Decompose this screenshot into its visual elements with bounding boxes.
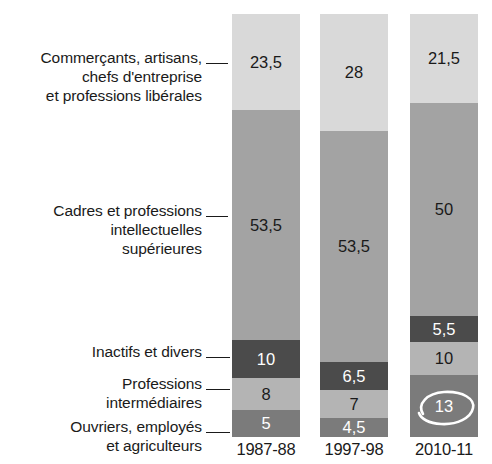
segment-commercants-1987: 23,5 <box>232 14 300 110</box>
segment-ouvriers-2010: 13 <box>410 375 478 437</box>
category-label-professions-intermediaires: Professions intermédiaires <box>6 374 202 412</box>
segment-intermediaires-2010: 10 <box>410 342 478 375</box>
stacked-bar-chart: Commerçants, artisans, chefs d'entrepris… <box>0 0 492 464</box>
axis-label-1987-88: 1987-88 <box>222 440 310 459</box>
axis-label-1997-98: 1997-98 <box>310 440 398 459</box>
segment-ouvriers-1987: 5 <box>232 410 300 437</box>
segment-cadres-2010: 50 <box>410 103 478 316</box>
bar-1987-88: 23,5 53,5 10 8 5 <box>232 14 300 437</box>
leader-line-commercants <box>206 63 228 64</box>
bar-1997-98: 28 53,5 6,5 7 4,5 <box>320 14 388 437</box>
segment-inactifs-1987: 10 <box>232 340 300 378</box>
category-label-cadres: Cadres et professions intellectuelles su… <box>6 201 202 258</box>
leader-line-professions-intermediaires <box>206 389 230 390</box>
bar-2010-11: 21,5 50 5,5 10 13 <box>410 14 478 437</box>
axis-label-2010-11: 2010-11 <box>400 440 488 459</box>
segment-ouvriers-1997: 4,5 <box>320 418 388 437</box>
segment-commercants-2010: 21,5 <box>410 14 478 103</box>
leader-line-cadres <box>206 216 228 217</box>
segment-inactifs-1997: 6,5 <box>320 362 388 390</box>
category-label-inactifs: Inactifs et divers <box>6 342 202 361</box>
segment-intermediaires-1987: 8 <box>232 378 300 410</box>
segment-cadres-1997: 53,5 <box>320 131 388 362</box>
category-label-commercants: Commerçants, artisans, chefs d'entrepris… <box>6 48 202 105</box>
category-label-ouvriers: Ouvriers, employés et agriculteurs <box>6 417 202 455</box>
segment-commercants-1997: 28 <box>320 14 388 131</box>
leader-line-inactifs <box>206 357 230 358</box>
segment-intermediaires-1997: 7 <box>320 390 388 418</box>
leader-line-ouvriers <box>206 432 230 433</box>
segment-cadres-1987: 53,5 <box>232 110 300 340</box>
segment-inactifs-2010: 5,5 <box>410 316 478 342</box>
